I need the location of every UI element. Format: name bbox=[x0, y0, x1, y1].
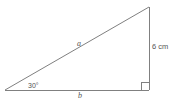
height-label-6-cm: 6 cm bbox=[152, 43, 168, 51]
hypotenuse-label-a: a bbox=[77, 40, 81, 48]
angle-label-30-degrees: 30° bbox=[28, 82, 39, 89]
triangle-figure bbox=[0, 0, 171, 104]
base-label-b: b bbox=[78, 92, 82, 100]
right-triangle-diagram: 30° a b 6 cm bbox=[0, 0, 171, 104]
triangle-hypotenuse-line bbox=[5, 7, 149, 90]
right-angle-square-marker bbox=[141, 82, 149, 90]
